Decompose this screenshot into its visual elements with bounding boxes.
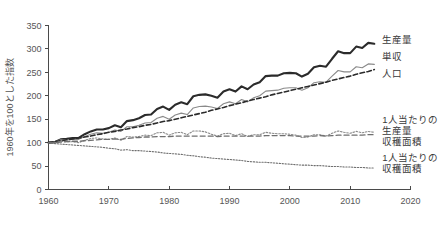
series-label-2: 人口 bbox=[382, 68, 402, 79]
series-label-5-line1: 1人当たりの bbox=[382, 152, 437, 163]
series-line-2 bbox=[49, 70, 375, 143]
y-tick-label: 150 bbox=[26, 114, 41, 124]
x-tick-label: 1970 bbox=[99, 196, 119, 206]
x-tick-label: 1990 bbox=[219, 196, 239, 206]
series-label-3-line1: 1人当たりの bbox=[382, 114, 437, 125]
series-line-4 bbox=[49, 135, 375, 143]
axes-group bbox=[45, 26, 411, 190]
series-label-0: 生産量 bbox=[382, 34, 412, 45]
series-line-1 bbox=[49, 64, 375, 143]
series-line-0 bbox=[49, 43, 375, 143]
chart-container: 050100150200250300350 196019701980199020… bbox=[0, 0, 441, 225]
y-tick-label: 100 bbox=[26, 138, 41, 148]
y-tick-label: 0 bbox=[36, 185, 41, 195]
y-tick-labels: 050100150200250300350 bbox=[26, 21, 41, 195]
x-tick-label: 1980 bbox=[159, 196, 179, 206]
x-tick-label: 2020 bbox=[400, 196, 420, 206]
series-label-1: 単収 bbox=[382, 51, 402, 62]
y-tick-label: 200 bbox=[26, 91, 41, 101]
series-line-5 bbox=[49, 143, 375, 168]
y-tick-label: 300 bbox=[26, 44, 41, 54]
x-tick-label: 2000 bbox=[280, 196, 300, 206]
series-label-3-line2: 生産量 bbox=[382, 125, 412, 136]
y-tick-label: 350 bbox=[26, 21, 41, 31]
series-label-4: 収穫面積 bbox=[382, 136, 422, 147]
line-chart: 050100150200250300350 196019701980199020… bbox=[0, 0, 441, 225]
x-tick-labels: 1960197019801990200020102020 bbox=[38, 196, 420, 206]
series-lines bbox=[49, 43, 375, 168]
axis-lines bbox=[49, 26, 411, 190]
y-axis-title-text: 1960年を100とした指数 bbox=[4, 58, 15, 156]
x-tick-label: 2010 bbox=[340, 196, 360, 206]
series-label-5-line2: 収穫面積 bbox=[382, 163, 422, 174]
series-labels: 生産量単収人口1人当たりの生産量収穫面積1人当たりの収穫面積 bbox=[382, 34, 437, 174]
y-tick-label: 50 bbox=[31, 161, 41, 171]
y-tick-label: 250 bbox=[26, 68, 41, 78]
y-axis-title: 1960年を100とした指数 bbox=[4, 58, 15, 156]
x-tick-label: 1960 bbox=[38, 196, 58, 206]
